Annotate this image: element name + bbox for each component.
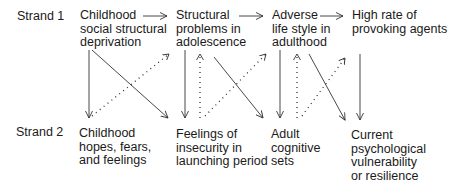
arrow-dotted-up-2 [205, 54, 266, 116]
arrow-diag-3 [309, 54, 345, 120]
arrow-diag-2 [214, 57, 263, 118]
arrows-layer [0, 0, 451, 188]
arrow-diag-1 [92, 50, 168, 118]
